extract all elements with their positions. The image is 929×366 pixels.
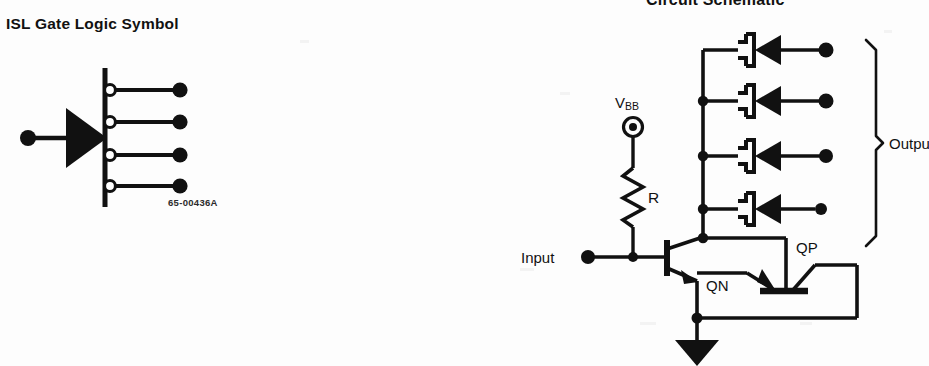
- schottky-diode-icon: [738, 193, 781, 225]
- input-label: Input: [521, 249, 555, 266]
- ground-net: [675, 313, 857, 366]
- outputs-label: Outputs: [889, 135, 929, 152]
- qp-label: QP: [796, 239, 818, 256]
- output-terminal-dot: [819, 149, 833, 163]
- input-junction-node: [628, 252, 638, 262]
- document-page: ISL Gate Logic Symbol Circuit Schematic …: [0, 0, 929, 366]
- input-terminal: Input: [521, 249, 665, 266]
- resistor-zigzag: [623, 168, 643, 227]
- schottky-diode-icon: [738, 140, 781, 172]
- qp-emitter-arrow: [757, 269, 776, 291]
- outputs-bracket-group: Outputs: [866, 40, 929, 246]
- npn-transistor-qn: QN: [667, 233, 729, 318]
- output-terminal-dot: [815, 203, 827, 215]
- schottky-diode-row: [698, 140, 833, 172]
- outputs-brace-icon: [866, 40, 883, 246]
- schottky-diode-icon: [738, 85, 781, 117]
- vbb-terminal-dot: [629, 123, 637, 131]
- qn-label: QN: [706, 277, 729, 294]
- circuit-schematic-diagram: V BB R Input: [0, 0, 929, 366]
- vbb-label: V: [615, 94, 625, 111]
- qn-collector-lead: [667, 238, 700, 249]
- resistor-label: R: [648, 189, 659, 206]
- schottky-diode-row: [698, 193, 827, 225]
- schottky-diode-row: [698, 85, 834, 117]
- schottky-diode-row: [703, 34, 834, 66]
- qp-collector-lead: [793, 265, 815, 290]
- output-terminal-dot: [819, 94, 834, 109]
- ground-symbol-icon: [675, 340, 719, 366]
- vbb-subscript: BB: [625, 100, 639, 112]
- output-terminal-dot: [819, 43, 834, 58]
- schottky-diode-icon: [738, 34, 781, 66]
- vbb-supply: V BB: [615, 94, 643, 137]
- resistor-r: R: [623, 168, 659, 227]
